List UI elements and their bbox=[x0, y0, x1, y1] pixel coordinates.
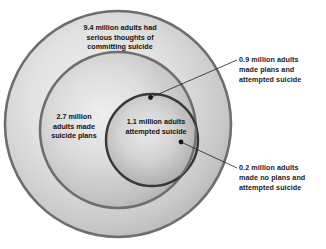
callout-noplans-and-attempted: 0.2 million adults made no plans and att… bbox=[239, 163, 325, 192]
callout-plans-and-attempted: 0.9 million adults made plans and attemp… bbox=[239, 55, 325, 84]
label-serious-thoughts: 9.4 million adults had serious thoughts … bbox=[53, 23, 187, 52]
leader-dot-noplans-attempted bbox=[179, 140, 184, 145]
label-made-plans: 2.7 million adults made suicide plans bbox=[37, 112, 111, 141]
venn-diagram-figure: 9.4 million adults had serious thoughts … bbox=[0, 0, 326, 249]
label-attempted-suicide: 1.1 million adults attempted suicide bbox=[110, 117, 202, 136]
leader-dot-plans-attempted bbox=[148, 95, 153, 100]
